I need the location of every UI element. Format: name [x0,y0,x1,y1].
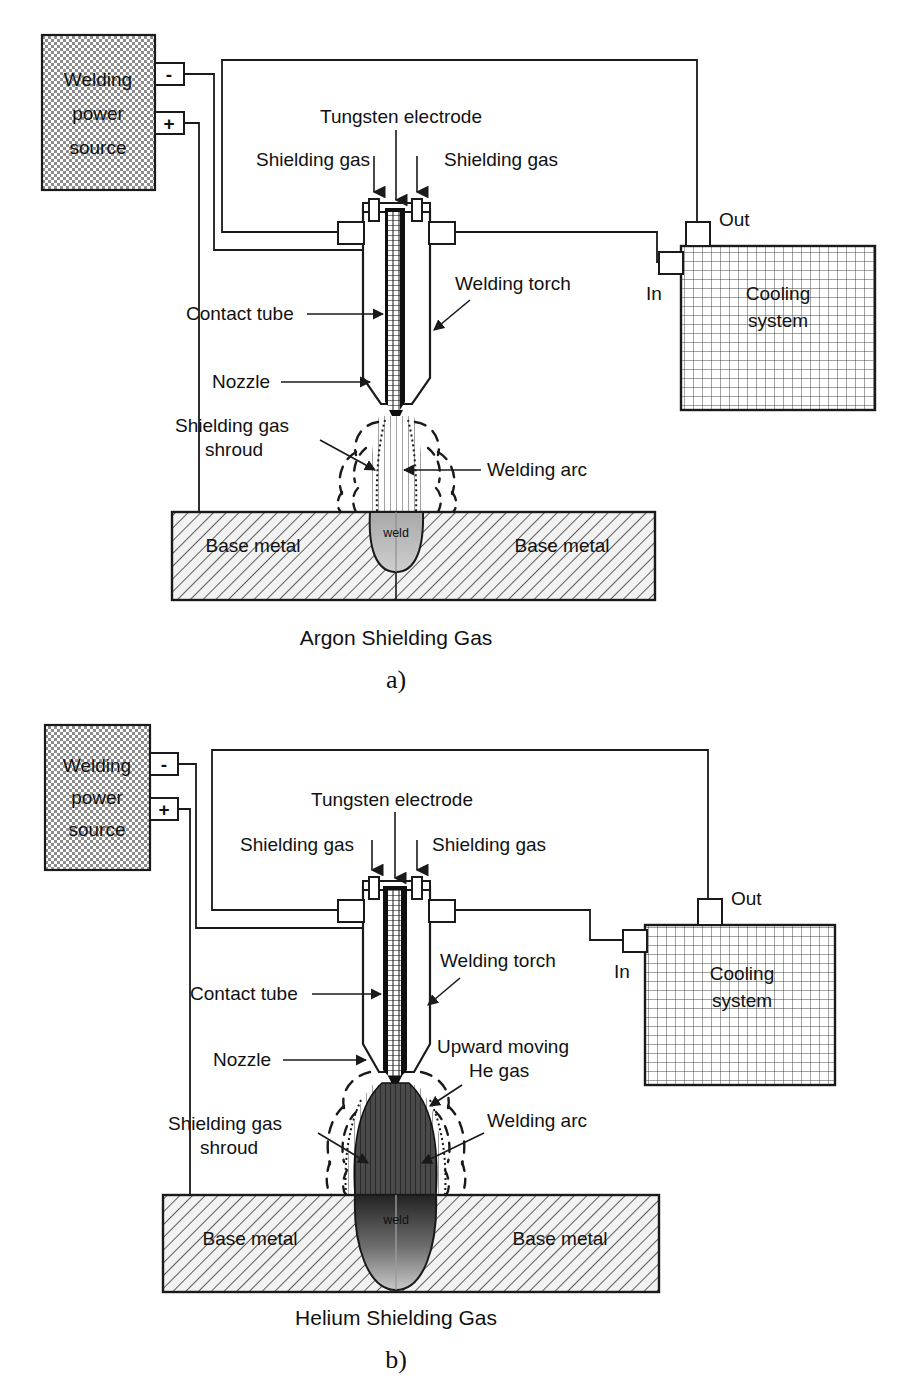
contact-tube-label: Contact tube [190,983,298,1004]
welding-arc-label: Welding arc [487,459,587,480]
callout-welding-arc-a: Welding arc [404,459,587,480]
callout-welding-torch-b: Welding torch [428,950,556,1005]
negative-terminal-symbol: - [161,754,167,775]
welding-torch-a[interactable] [338,199,455,424]
callout-contact-tube-b: Contact tube [190,983,381,1004]
welding-arc-b [346,1083,446,1195]
callout-nozzle-a: Nozzle [212,371,370,392]
welding-arc-a [370,416,423,512]
callout-welding-arc-b: Welding arc [422,1110,587,1163]
shielding-gas-left-label: Shielding gas [256,149,370,170]
shroud-label-line-1: Shielding gas [175,415,289,436]
welding-torch-label: Welding torch [455,273,571,294]
cooling-in-port-a[interactable]: In [646,252,683,304]
positive-terminal-symbol: + [163,113,174,134]
cooling-out-label: Out [731,888,762,909]
welding-torch-label: Welding torch [440,950,556,971]
caption-a: Argon Shielding Gas [300,626,493,649]
cooling-system-label-line-2: system [748,310,808,331]
callout-shielding-gas-shroud-b: Shielding gas shroud [168,1113,368,1163]
he-gas-label-line-1: Upward moving [437,1036,569,1057]
shroud-label-line-1: Shielding gas [168,1113,282,1134]
base-metal-label-right-b: Base metal [512,1228,607,1249]
weld-label-a: weld [382,526,409,540]
cooling-in-port-b[interactable]: In [614,930,647,982]
cooling-system-a[interactable]: Cooling system [681,246,875,410]
nozzle-label: Nozzle [212,371,270,392]
power-source-label-line-3: source [68,819,125,840]
callout-nozzle-b: Nozzle [213,1049,366,1070]
he-gas-label-line-2: He gas [469,1060,529,1081]
callout-shielding-gas-left-b: Shielding gas [240,834,372,870]
tungsten-electrode-label: Tungsten electrode [320,106,482,127]
figure-letter-a: a) [386,665,406,694]
figure-root: Welding power source - + Cooling system [0,0,907,1392]
positive-terminal-symbol: + [158,799,169,820]
negative-terminal-b[interactable]: - [150,753,178,775]
negative-terminal-symbol: - [166,64,172,85]
base-metal-label-left-a: Base metal [205,535,300,556]
figure-letter-b: b) [385,1345,407,1374]
coolant-out-line-b [212,750,708,910]
callout-shielding-gas-shroud-a: Shielding gas shroud [175,415,375,470]
callout-upward-moving-he-gas-b: Upward moving He gas [430,1036,569,1106]
cooling-in-label: In [646,283,662,304]
power-source-label-line-2: power [71,787,123,808]
base-metal-label-left-b: Base metal [202,1228,297,1249]
cooling-out-label: Out [719,209,750,230]
shielding-gas-right-label: Shielding gas [432,834,546,855]
callout-contact-tube-a: Contact tube [186,303,383,324]
shroud-label-line-2: shroud [205,439,263,460]
shroud-label-line-2: shroud [200,1137,258,1158]
negative-terminal-a[interactable]: - [155,63,184,85]
nozzle-label: Nozzle [213,1049,271,1070]
welding-torch-b[interactable] [338,877,455,1090]
panel-b: Welding power source - + Cooling system … [45,725,835,1374]
coolant-in-line-a [430,232,682,262]
callout-shielding-gas-left-a: Shielding gas [256,149,374,192]
shielding-gas-left-label: Shielding gas [240,834,354,855]
power-source-label-line-1: Welding [63,755,131,776]
power-source-b[interactable]: Welding power source [45,725,150,870]
cooling-in-label: In [614,961,630,982]
positive-cable-b [178,809,190,1195]
power-source-a[interactable]: Welding power source [42,35,155,190]
callout-welding-torch-a: Welding torch [434,273,571,330]
cooling-system-b[interactable]: Cooling system [645,925,835,1085]
cooling-system-label-line-2: system [712,990,772,1011]
positive-terminal-a[interactable]: + [155,112,184,134]
shielding-gas-right-label: Shielding gas [444,149,558,170]
cooling-out-port-a[interactable]: Out [686,209,750,246]
cooling-system-label-line-1: Cooling [746,283,810,304]
cooling-system-label-line-1: Cooling [710,963,774,984]
welding-arc-label: Welding arc [487,1110,587,1131]
coolant-out-line-a [222,60,697,232]
positive-terminal-b[interactable]: + [150,798,178,820]
weld-label-b: weld [382,1213,409,1227]
caption-b: Helium Shielding Gas [295,1306,497,1329]
tungsten-electrode-label: Tungsten electrode [311,789,473,810]
callout-shielding-gas-right-a: Shielding gas [417,149,558,192]
callout-shielding-gas-right-b: Shielding gas [417,834,546,870]
power-source-label-line-2: power [72,103,124,124]
contact-tube-label: Contact tube [186,303,294,324]
power-source-label-line-1: Welding [64,69,132,90]
power-source-label-line-3: source [69,137,126,158]
base-metal-label-right-a: Base metal [514,535,609,556]
panel-a: Welding power source - + Cooling system [42,35,875,694]
